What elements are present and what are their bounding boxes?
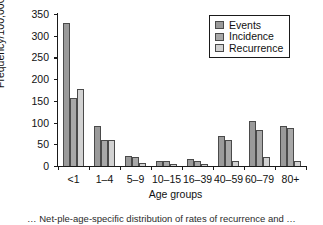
bar [101,140,108,166]
figure-container: Frequency/100,000 050100150200250300350<… [0,0,323,225]
bar [139,163,146,166]
y-tick-mark [54,36,58,37]
y-tick-mark [54,14,58,15]
chart-legend: EventsIncidenceRecurrence [209,15,290,58]
x-tick-label: 80+ [282,174,300,185]
legend-item: Recurrence [215,43,283,54]
x-tick-mark [151,166,152,170]
x-tick-label: 60–79 [245,174,274,185]
y-tick-label: 350 [31,9,49,20]
bar [77,89,84,166]
x-tick-mark [306,166,307,170]
x-tick-mark [120,166,121,170]
bar [63,23,70,166]
bar [280,126,287,166]
x-tick-mark [275,166,276,170]
x-tick-mark [244,166,245,170]
bar [194,161,201,166]
figure-caption: … Net-ple-age-specific distribution of r… [0,213,323,224]
bar [70,98,77,166]
bar [187,159,194,166]
y-tick-mark [54,79,58,80]
bar [287,128,294,166]
y-tick-mark [54,144,58,145]
legend-swatch-icon [215,33,224,41]
y-tick-label: 300 [31,30,49,41]
x-tick-label: 5–9 [127,174,145,185]
x-tick-label: 1–4 [96,174,114,185]
y-tick-label: 50 [37,139,49,150]
bar [256,130,263,166]
bar [249,121,256,166]
x-tick-mark [213,166,214,170]
bar [232,161,239,166]
x-tick-mark [89,166,90,170]
bar [218,136,225,166]
bar [163,161,170,166]
y-tick-label: 100 [31,117,49,128]
legend-item: Incidence [215,31,283,42]
bar [94,126,101,166]
legend-swatch-icon [215,44,224,52]
y-tick-label: 150 [31,96,49,107]
x-tick-label: 16–39 [183,174,212,185]
bar [201,164,208,166]
y-tick-mark [54,101,58,102]
bar [170,164,177,166]
x-tick-mark [182,166,183,170]
y-tick-label: 250 [31,52,49,63]
bar [156,161,163,166]
y-tick-mark [54,57,58,58]
y-axis-title: Frequency/100,000 [0,0,6,88]
x-tick-label: 40–59 [214,174,243,185]
y-tick-mark [54,123,58,124]
bar [225,140,232,166]
x-tick-label: <1 [68,174,80,185]
bar [263,157,270,166]
legend-label: Events [229,20,261,31]
legend-label: Incidence [229,31,274,42]
bar [294,161,301,166]
bar [108,140,115,166]
x-tick-label: 10–15 [152,174,181,185]
y-tick-label: 0 [43,161,49,172]
bar [132,157,139,166]
legend-swatch-icon [215,21,224,29]
bar [125,156,132,166]
x-axis-title: Age groups [0,188,323,200]
legend-label: Recurrence [229,43,283,54]
y-tick-label: 200 [31,74,49,85]
x-tick-mark [58,166,59,170]
legend-item: Events [215,20,283,31]
